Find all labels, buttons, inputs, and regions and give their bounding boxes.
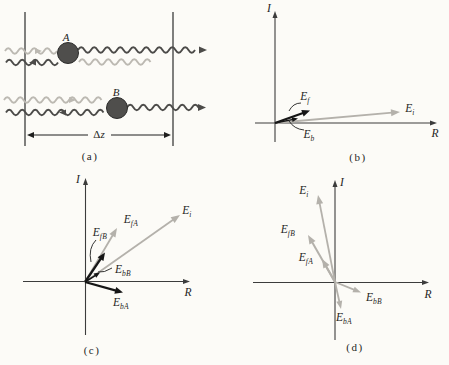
back-wave-B [6, 110, 104, 116]
vector-label-EfB-c: EfB [93, 226, 108, 241]
vector-label-EfA-d: EfA [299, 251, 314, 266]
panel_d-vector-EbA-head [336, 301, 342, 309]
z-variable: z [100, 128, 104, 140]
vector-label-Ei-b: Ei [405, 102, 415, 117]
vector-label-EbB-c: EbB [115, 263, 131, 278]
particle-A-label: A [63, 31, 70, 43]
caption-a: (a) [82, 150, 99, 162]
figure-scattering-phasors: A B Δz (a) I R (b) I R (c) I R (d) EiEbE… [0, 0, 449, 365]
passed-wave-A [79, 59, 151, 65]
panel_b-imaginary-axis-arrow [273, 11, 278, 18]
panel_c-vector-EfA-head [109, 228, 117, 238]
panel-b-imaginary-axis-label: I [267, 2, 271, 14]
forward-wave-A [78, 47, 195, 53]
panel-d-real-axis-label: R [424, 288, 431, 300]
panel-d-imaginary-axis-label: I [340, 176, 344, 188]
caption-b: (b) [349, 151, 366, 163]
vector-label-Ei-c: Ei [182, 204, 192, 219]
panel_d-real-axis-arrow [422, 280, 429, 285]
vector-label-Eb-b: Eb [303, 128, 314, 143]
panel_d-vector-EfA-head [322, 259, 329, 269]
caption-d: (d) [346, 341, 363, 353]
vector-label-Ei-d: Ei [299, 184, 309, 199]
panel_c-vector-EbA-head [114, 287, 123, 294]
panel_c-imaginary-axis-arrow [83, 178, 88, 185]
vector-label-EbA-d: EbA [336, 311, 352, 326]
caption-c: (c) [84, 344, 101, 356]
panel_b-Ef-leader [289, 103, 301, 111]
panel_c-vector-EfB-shaft [85, 256, 103, 282]
panel_d-vector-EfB-head [308, 235, 316, 245]
forward-wave-B [127, 105, 199, 111]
particle-B-label: B [113, 86, 120, 98]
panel_b-vector-Ei-head [391, 109, 400, 116]
vector-label-EfA-c: EfA [124, 213, 139, 228]
panel_b-real-axis-arrow [430, 121, 437, 126]
panel_c-vector-EbA-shaft [85, 282, 119, 291]
vector-label-Ef-b: Ef [300, 90, 310, 105]
panel_c-real-axis-arrow [183, 279, 190, 284]
delta-z-label: Δz [93, 128, 104, 140]
vector-label-EbB-d: EbB [366, 291, 382, 306]
dimension-arrow-left [27, 132, 34, 138]
figure-canvas [0, 0, 449, 365]
panel_d-vector-EbB-head [352, 287, 361, 293]
panel-b-graphics [255, 11, 437, 142]
particle-B-circle [107, 98, 128, 119]
panel-c-real-axis-label: R [184, 286, 191, 298]
panel-b-real-axis-label: R [431, 127, 438, 139]
vector-label-EbA-c: EbA [113, 296, 129, 311]
panel-a-graphics [4, 12, 207, 146]
forward-wave-B-arrow [198, 104, 206, 111]
dimension-arrow-right [164, 132, 171, 138]
vector-label-EfB-d: EfB [281, 223, 296, 238]
particle-A-circle [58, 43, 79, 64]
panel_b-vector-Ef-head [301, 110, 310, 117]
panel_d-vector-Ei-head [316, 195, 323, 205]
incident-wave-A [5, 48, 57, 54]
panel-c-graphics [23, 178, 190, 335]
panel_d-imaginary-axis-arrow [333, 180, 338, 187]
panel_c-EfB-leader [90, 240, 96, 262]
panel-c-imaginary-axis-label: I [76, 173, 80, 185]
forward-wave-A-arrow [199, 47, 207, 54]
incident-wave-B [4, 97, 102, 103]
panel_c-vector-Ei-head [171, 215, 180, 223]
